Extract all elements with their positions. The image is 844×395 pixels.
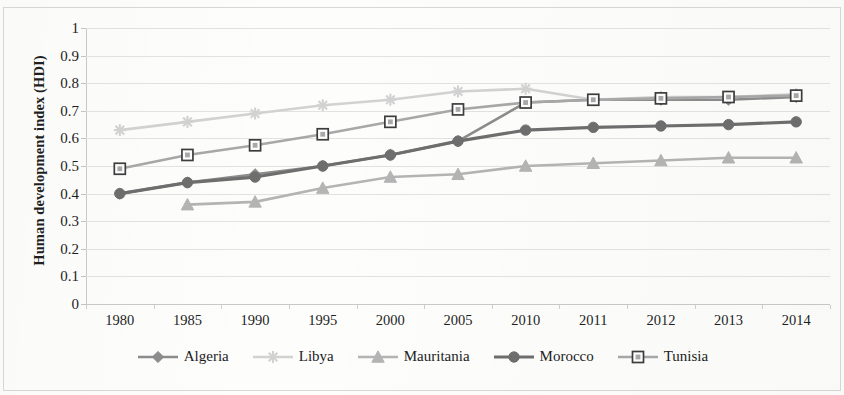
x-tick-mark bbox=[289, 305, 290, 309]
y-tick-label: 0.6 bbox=[60, 130, 79, 147]
data-point-marker bbox=[588, 122, 598, 132]
y-tick-label: 0.5 bbox=[60, 158, 79, 175]
x-tick-label: 1995 bbox=[308, 312, 337, 329]
chart-figure: Human development index (HDI) 00.10.20.3… bbox=[0, 0, 844, 395]
legend-item-tunisia[interactable]: Tunisia bbox=[616, 348, 708, 365]
data-point-marker bbox=[453, 136, 463, 146]
data-point-marker bbox=[656, 121, 666, 131]
data-point-marker bbox=[114, 163, 125, 174]
legend-label: Tunisia bbox=[664, 348, 708, 365]
star-icon bbox=[251, 349, 295, 365]
data-point-marker bbox=[385, 150, 395, 160]
y-tick-label: 0.3 bbox=[60, 213, 79, 230]
diamond-icon bbox=[136, 349, 180, 365]
chart-series-layer bbox=[86, 28, 830, 304]
data-point-marker bbox=[250, 140, 261, 151]
x-tick-mark bbox=[627, 305, 628, 309]
data-point-marker bbox=[723, 119, 733, 129]
data-point-marker bbox=[114, 124, 126, 136]
data-point-marker bbox=[249, 108, 261, 120]
data-point-marker bbox=[181, 116, 193, 128]
x-tick-mark bbox=[830, 305, 831, 309]
data-point-marker bbox=[723, 92, 734, 103]
x-tick-label: 1980 bbox=[105, 312, 134, 329]
x-tick-label: 2014 bbox=[782, 312, 811, 329]
data-point-marker bbox=[317, 99, 329, 111]
x-tick-label: 2013 bbox=[714, 312, 743, 329]
legend-label: Mauritania bbox=[404, 348, 470, 365]
x-tick-mark bbox=[762, 305, 763, 309]
data-point-marker bbox=[520, 83, 532, 95]
y-tick-label: 1 bbox=[72, 20, 80, 37]
x-tick-label: 2010 bbox=[511, 312, 540, 329]
legend-item-morocco[interactable]: Morocco bbox=[492, 348, 594, 365]
x-tick-label: 1990 bbox=[241, 312, 270, 329]
data-point-marker bbox=[453, 104, 464, 115]
legend-item-libya[interactable]: Libya bbox=[251, 348, 334, 365]
triangle-icon bbox=[356, 349, 400, 365]
data-point-marker bbox=[318, 161, 328, 171]
x-tick-mark bbox=[221, 305, 222, 309]
series-line bbox=[120, 122, 796, 194]
x-tick-mark bbox=[695, 305, 696, 309]
legend-item-mauritania[interactable]: Mauritania bbox=[356, 348, 470, 365]
y-tick-label: 0.2 bbox=[60, 240, 79, 257]
x-tick-mark bbox=[424, 305, 425, 309]
y-tick-label: 0.9 bbox=[60, 47, 79, 64]
data-point-marker bbox=[182, 149, 193, 160]
data-point-marker bbox=[384, 94, 396, 106]
chart-legend: AlgeriaLibyaMauritaniaMoroccoTunisia bbox=[0, 348, 844, 365]
x-tick-label: 2012 bbox=[646, 312, 675, 329]
x-tick-label: 2005 bbox=[444, 312, 473, 329]
plot-area: 00.10.20.30.40.50.60.70.80.91 1980198519… bbox=[86, 28, 830, 304]
legend-item-algeria[interactable]: Algeria bbox=[136, 348, 229, 365]
x-tick-mark bbox=[86, 305, 87, 309]
x-tick-mark bbox=[492, 305, 493, 309]
data-point-marker bbox=[250, 172, 260, 182]
x-tick-mark bbox=[357, 305, 358, 309]
x-tick-label: 1985 bbox=[173, 312, 202, 329]
legend-label: Libya bbox=[299, 348, 334, 365]
data-point-marker bbox=[791, 117, 801, 127]
data-point-marker bbox=[115, 188, 125, 198]
x-tick-label: 2000 bbox=[376, 312, 405, 329]
legend-label: Morocco bbox=[540, 348, 594, 365]
open-square-icon bbox=[616, 349, 660, 365]
y-tick-label: 0.7 bbox=[60, 102, 79, 119]
data-point-marker bbox=[791, 90, 802, 101]
x-tick-mark bbox=[559, 305, 560, 309]
data-point-marker bbox=[588, 94, 599, 105]
data-point-marker bbox=[182, 177, 192, 187]
y-axis-label: Human development index (HDI) bbox=[31, 26, 48, 296]
y-tick-label: 0 bbox=[72, 296, 80, 313]
data-point-marker bbox=[520, 97, 531, 108]
data-point-marker bbox=[317, 129, 328, 140]
gridline bbox=[86, 304, 830, 305]
data-point-marker bbox=[520, 125, 530, 135]
series-tunisia bbox=[114, 90, 801, 174]
y-tick-label: 0.8 bbox=[60, 75, 79, 92]
circle-icon bbox=[492, 349, 536, 365]
x-tick-mark bbox=[154, 305, 155, 309]
y-tick-label: 0.1 bbox=[60, 268, 79, 285]
series-line bbox=[187, 158, 796, 205]
series-mauritania bbox=[181, 152, 802, 210]
data-point-marker bbox=[452, 85, 464, 97]
data-point-marker bbox=[655, 93, 666, 104]
data-point-marker bbox=[385, 116, 396, 127]
x-tick-label: 2011 bbox=[579, 312, 607, 329]
legend-label: Algeria bbox=[184, 348, 229, 365]
y-tick-label: 0.4 bbox=[60, 185, 79, 202]
